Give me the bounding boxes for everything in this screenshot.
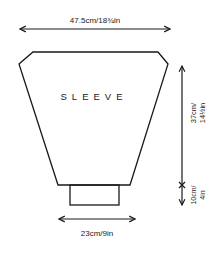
cuff-length-label-2: 4in — [199, 190, 206, 199]
sleeve-schematic: 47.5cm/18¾in SLEEVE 23cm/9in 37cm/ 14½in… — [0, 0, 224, 256]
cuff-length-label-1: 10cm/ — [190, 185, 197, 204]
sleeve-length-label-1: 37cm/ — [189, 102, 198, 123]
cuff-outline — [70, 185, 119, 205]
top-width-label: 47.5cm/18¾in — [70, 16, 120, 25]
cuff-width-label: 23cm/9in — [81, 229, 113, 238]
sleeve-length-label-2: 14½in — [198, 103, 207, 123]
sleeve-body-outline — [19, 52, 168, 185]
sleeve-title: SLEEVE — [61, 91, 128, 102]
